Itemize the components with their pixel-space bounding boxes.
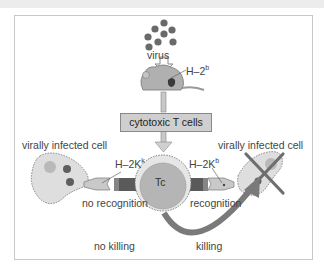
no-killing-label: no killing: [94, 241, 135, 252]
left-infected-cell: [31, 153, 88, 204]
right-infected-cell: [238, 152, 283, 196]
right-mhc-receptor: [208, 178, 234, 190]
mouse-mhc-text: H–2: [186, 65, 205, 77]
left-mhc-text: H–2K: [115, 158, 141, 170]
recognition-label: recognition: [190, 198, 241, 209]
right-cell-label: virally infected cell: [218, 140, 303, 151]
mouse-mhc-label: H–2b: [186, 64, 209, 76]
left-cell-label: virally infected cell: [22, 140, 107, 151]
virus-label: virus: [147, 50, 169, 61]
tc-label: Tc: [155, 177, 166, 188]
right-mhc-label: H–2Kb: [189, 157, 219, 169]
killing-label: killing: [196, 241, 222, 252]
diagram-graphics: [0, 0, 324, 267]
cytotoxic-t-cells-box: cytotoxic T cells: [120, 113, 212, 132]
left-mhc-label: H–2Kk: [115, 157, 145, 169]
mouse-mhc-sup: b: [205, 64, 209, 71]
right-mhc-text: H–2K: [189, 158, 215, 170]
no-recognition-label: no recognition: [82, 198, 148, 209]
virus-icon: [144, 19, 176, 50]
right-mhc-sup: b: [215, 157, 219, 164]
left-mhc-sup: k: [141, 157, 145, 164]
